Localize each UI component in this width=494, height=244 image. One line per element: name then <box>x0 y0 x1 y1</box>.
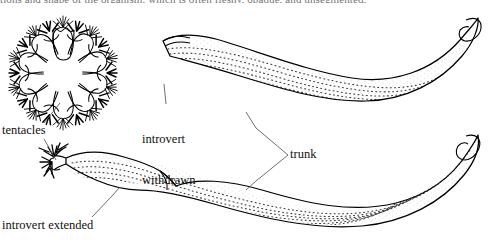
label-introvert-withdrawn-line1: introvert <box>142 133 195 147</box>
extended-introvert-tentacles <box>39 143 68 178</box>
lower-worm-introvert-extended <box>39 130 494 244</box>
lower-worm-stipple-fill <box>40 130 494 244</box>
leader-tentacles-to-introvert <box>44 139 56 160</box>
crown-tentacle-bristles <box>6 16 121 130</box>
leader-introvert-extended <box>92 187 120 217</box>
tentacle-crown-oral-view <box>6 16 121 130</box>
figure-root: tions and shape of the organism, which i… <box>0 0 494 244</box>
label-trunk: trunk <box>290 148 316 162</box>
leader-trunk-upper <box>246 112 288 155</box>
label-tentacles: tentacles <box>2 124 46 138</box>
leader-trunk-lower <box>246 155 288 190</box>
label-introvert-withdrawn: introvert withdrawn <box>142 106 195 214</box>
label-introvert-extended: introvert extended <box>2 219 93 233</box>
leader-introvert-withdrawn <box>164 84 166 104</box>
label-introvert-withdrawn-line2: withdrawn <box>142 174 195 188</box>
upper-worm-introvert-withdrawn <box>150 10 494 120</box>
anatomy-illustration <box>0 0 494 244</box>
